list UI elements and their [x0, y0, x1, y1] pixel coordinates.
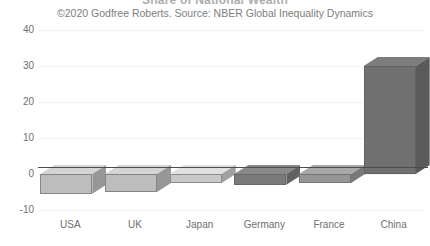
chart-container: Share of National Wealth ©2020 Godfree R… — [0, 0, 430, 246]
y-axis: 403020100-10 — [0, 30, 34, 210]
x-tick-label: UK — [103, 219, 168, 230]
bar-front-face — [234, 174, 286, 185]
y-tick-label: 40 — [4, 25, 34, 35]
y-tick-label: 20 — [4, 97, 34, 107]
gridline — [38, 210, 426, 211]
chart-subtitle: ©2020 Godfree Roberts. Source: NBER Glob… — [0, 7, 430, 19]
bar-front-face — [40, 174, 92, 194]
bar-front-face — [299, 174, 351, 183]
y-tick-label: -10 — [4, 205, 34, 215]
zero-axis-line — [38, 167, 428, 168]
x-tick-label: France — [297, 219, 362, 230]
x-tick-label: USA — [38, 219, 103, 230]
bar-front-face — [364, 66, 416, 174]
plot-area — [38, 30, 426, 210]
y-tick-label: 30 — [4, 61, 34, 71]
y-tick-label: 0 — [4, 169, 34, 179]
bar-front-face — [105, 174, 157, 192]
bar[interactable] — [40, 165, 106, 194]
x-axis: USAUKJapanGermanyFranceChina — [38, 219, 428, 235]
bar-side-face — [416, 57, 430, 174]
x-tick-label: Japan — [167, 219, 232, 230]
x-tick-label: Germany — [232, 219, 297, 230]
gridline — [38, 30, 426, 31]
chart-title: Share of National Wealth — [0, 0, 430, 7]
x-tick-label: China — [361, 219, 426, 230]
bar-front-face — [170, 174, 222, 183]
bar[interactable] — [364, 57, 430, 174]
y-tick-label: 10 — [4, 133, 34, 143]
bar[interactable] — [105, 165, 171, 192]
